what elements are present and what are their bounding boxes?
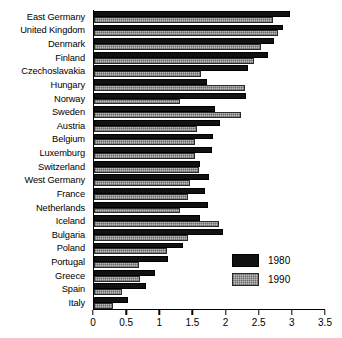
bar-row — [94, 119, 325, 133]
solid-black-swatch — [232, 254, 259, 267]
category-label: Spain — [0, 283, 89, 297]
category-label: West Germany — [0, 174, 89, 188]
category-label: Belgium — [0, 133, 89, 147]
bar-1990 — [94, 153, 195, 159]
x-axis: 00.511.522.533.5 — [93, 310, 325, 336]
x-axis-tick — [225, 310, 226, 315]
category-label: Greece — [0, 269, 89, 283]
chart-legend: 19801990 — [232, 251, 324, 289]
bar-1990 — [94, 58, 254, 64]
category-label: Sweden — [0, 105, 89, 119]
bar-1990 — [94, 17, 273, 23]
x-axis-tick — [291, 310, 292, 315]
category-label: Bulgaria — [0, 228, 89, 242]
legend-label: 1980 — [268, 255, 290, 266]
bar-row — [94, 65, 325, 79]
bar-row — [94, 51, 325, 65]
bar-1990 — [94, 248, 167, 254]
x-axis-tick — [125, 310, 126, 315]
category-label: Switzerland — [0, 160, 89, 174]
bar-1990 — [94, 208, 180, 214]
category-label: Czechoslavakia — [0, 65, 89, 79]
x-axis-tick-label: 3.5 — [318, 317, 332, 328]
bar-row — [94, 174, 325, 188]
bar-1990 — [94, 235, 188, 241]
bar-row — [94, 214, 325, 228]
legend-entry: 1980 — [232, 251, 324, 270]
category-label: Finland — [0, 51, 89, 65]
x-axis-tick-label: 0.5 — [119, 317, 133, 328]
bar-1990 — [94, 30, 278, 36]
category-label: Denmark — [0, 37, 89, 51]
bar-1990 — [94, 112, 241, 118]
category-label: Iceland — [0, 214, 89, 228]
x-axis-tick — [192, 310, 193, 315]
x-axis-tick — [258, 310, 259, 315]
bar-1990 — [94, 44, 261, 50]
bar-1990 — [94, 99, 180, 105]
bar-row — [94, 146, 325, 160]
x-axis-tick — [324, 310, 325, 315]
bar-1990 — [94, 262, 139, 268]
bar-1990 — [94, 71, 201, 77]
bar-1990 — [94, 126, 197, 132]
category-label: France — [0, 187, 89, 201]
bar-1990 — [94, 180, 190, 186]
bar-1990 — [94, 139, 195, 145]
bar-row — [94, 201, 325, 215]
bar-1990 — [94, 167, 199, 173]
bar-1990 — [94, 289, 122, 295]
category-label: Norway — [0, 92, 89, 106]
category-label: Netherlands — [0, 201, 89, 215]
bar-1990 — [94, 221, 219, 227]
bar-row — [94, 78, 325, 92]
category-label: Austria — [0, 119, 89, 133]
bar-row — [94, 296, 325, 310]
x-axis-tick — [92, 310, 93, 315]
category-label: United Kingdom — [0, 24, 89, 38]
bar-1990 — [94, 194, 188, 200]
bar-row — [94, 37, 325, 51]
category-label: Hungary — [0, 78, 89, 92]
bar-1990 — [94, 85, 245, 91]
bar-1990 — [94, 303, 113, 309]
bar-chart: East GermanyUnited KingdomDenmarkFinland… — [0, 0, 342, 338]
x-axis-tick-label: 0 — [90, 317, 96, 328]
category-label: East Germany — [0, 10, 89, 24]
category-label: Poland — [0, 242, 89, 256]
bar-1990 — [94, 276, 140, 282]
legend-entry: 1990 — [232, 270, 324, 289]
bar-row — [94, 105, 325, 119]
x-axis-tick-label: 3 — [289, 317, 295, 328]
bar-row — [94, 133, 325, 147]
bar-row — [94, 187, 325, 201]
legend-label: 1990 — [268, 274, 290, 285]
category-label: Italy — [0, 296, 89, 310]
x-axis-tick-label: 2 — [223, 317, 229, 328]
bar-row — [94, 10, 325, 24]
bar-row — [94, 228, 325, 242]
bar-row — [94, 24, 325, 38]
x-axis-tick-label: 2.5 — [252, 317, 266, 328]
hatched-gray-swatch — [232, 273, 259, 286]
category-axis-labels: East GermanyUnited KingdomDenmarkFinland… — [0, 10, 89, 310]
x-axis-tick-label: 1.5 — [185, 317, 199, 328]
bar-row — [94, 160, 325, 174]
bar-row — [94, 92, 325, 106]
category-label: Luxemburg — [0, 146, 89, 160]
x-axis-tick — [159, 310, 160, 315]
category-label: Portugal — [0, 255, 89, 269]
x-axis-tick-label: 1 — [157, 317, 163, 328]
